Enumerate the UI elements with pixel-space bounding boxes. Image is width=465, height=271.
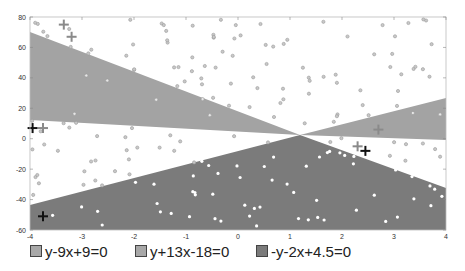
legend-item-3: -y-2x+4.5=0	[256, 241, 351, 261]
legend-label-2: y+13x-18=0	[150, 243, 229, 260]
svg-text:80: 80	[18, 14, 26, 21]
svg-text:-20: -20	[16, 166, 26, 173]
svg-text:-1: -1	[183, 233, 189, 240]
svg-text:-3: -3	[79, 233, 85, 240]
legend-swatch-1	[30, 245, 42, 257]
svg-text:40: 40	[18, 74, 26, 81]
legend-label-3: -y-2x+4.5=0	[271, 243, 351, 260]
svg-text:60: 60	[18, 44, 26, 51]
legend-swatch-3	[256, 245, 268, 257]
svg-text:-2: -2	[131, 233, 137, 240]
svg-text:-4: -4	[27, 233, 33, 240]
svg-text:3: 3	[392, 233, 396, 240]
chart-plot: -4-3-2-101234 -60-40-20020406080	[0, 0, 465, 240]
svg-text:-40: -40	[16, 196, 26, 203]
legend-item-1: y-9x+9=0	[30, 241, 108, 261]
legend-swatch-2	[135, 245, 147, 257]
svg-text:-60: -60	[16, 227, 26, 234]
svg-text:0: 0	[236, 233, 240, 240]
svg-text:0: 0	[22, 135, 26, 142]
svg-text:1: 1	[288, 233, 292, 240]
svg-text:20: 20	[18, 105, 26, 112]
shaded-regions	[30, 32, 446, 230]
legend-item-2: y+13x-18=0	[135, 241, 229, 261]
svg-text:4: 4	[444, 233, 448, 240]
legend-label-1: y-9x+9=0	[45, 243, 108, 260]
svg-text:2: 2	[340, 233, 344, 240]
